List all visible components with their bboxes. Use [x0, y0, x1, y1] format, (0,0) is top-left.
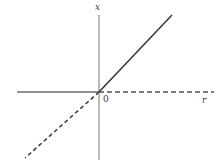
figure-container: x r 0	[0, 0, 221, 167]
diagonal-ray-upper-right-solid	[99, 15, 172, 92]
vertical-axis-label: x	[95, 3, 100, 12]
diagonal-ray-lower-left-dashed	[25, 92, 99, 158]
plot-canvas	[0, 0, 221, 167]
origin-label: 0	[103, 95, 109, 104]
horizontal-axis-label: r	[202, 96, 206, 105]
